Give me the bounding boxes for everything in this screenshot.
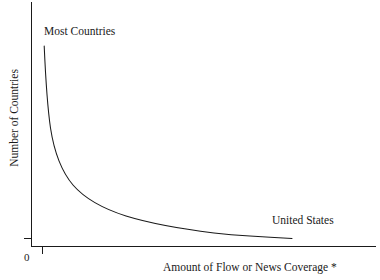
country-distribution-curve bbox=[44, 46, 292, 238]
x-axis-label: Amount of Flow or News Coverage * bbox=[163, 262, 337, 274]
y-axis-label: Number of Countries bbox=[9, 69, 21, 167]
annotation-united-states: United States bbox=[272, 215, 334, 227]
x-axis-tick-label-origin: 0 bbox=[24, 252, 30, 263]
chart-figure: Number of Countries Amount of Flow or Ne… bbox=[0, 0, 380, 280]
chart-plot-area bbox=[0, 0, 380, 280]
annotation-most-countries: Most Countries bbox=[44, 26, 115, 38]
